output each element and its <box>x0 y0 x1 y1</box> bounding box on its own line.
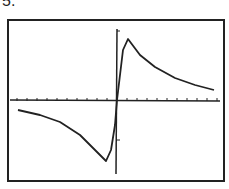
x-axis <box>10 100 220 101</box>
calculator-graph <box>0 0 229 189</box>
